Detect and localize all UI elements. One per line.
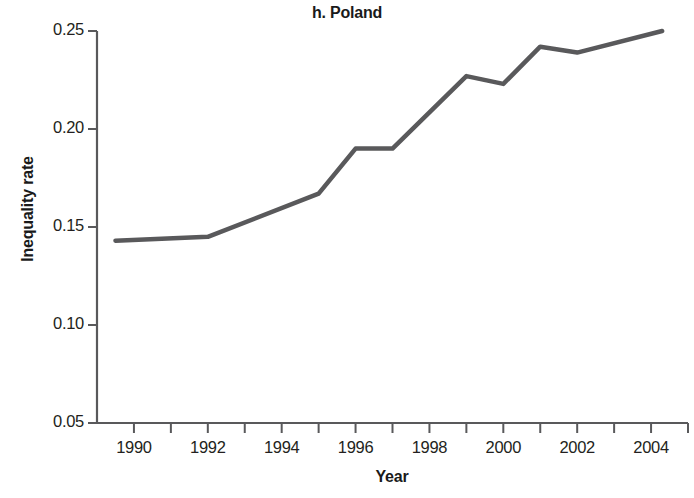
data-line — [115, 31, 662, 241]
y-axis-ticks — [88, 31, 97, 423]
chart-figure: h. Poland Inequality rate Year 0.050.100… — [0, 0, 694, 498]
x-tick-label: 2000 — [468, 438, 538, 457]
plot-area — [0, 0, 694, 498]
x-tick-label: 1996 — [321, 438, 391, 457]
x-tick-label: 2004 — [616, 438, 686, 457]
y-tick-label: 0.25 — [30, 20, 84, 39]
data-series-group — [115, 31, 662, 241]
x-tick-label: 1992 — [173, 438, 243, 457]
axis-lines — [97, 31, 688, 423]
x-tick-label: 1998 — [394, 438, 464, 457]
x-tick-label: 2002 — [542, 438, 612, 457]
x-axis-ticks — [134, 423, 688, 433]
y-tick-label: 0.15 — [30, 216, 84, 235]
x-tick-label: 1994 — [247, 438, 317, 457]
y-tick-label: 0.10 — [30, 314, 84, 333]
y-tick-label: 0.20 — [30, 118, 84, 137]
y-tick-label: 0.05 — [30, 412, 84, 431]
x-tick-label: 1990 — [99, 438, 169, 457]
